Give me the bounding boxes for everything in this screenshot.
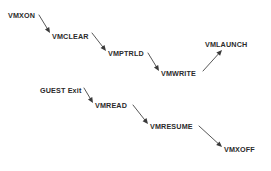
vmx-flow-diagram: VMXONVMCLEARVMPTRLDVMWRITEVMLAUNCHGUEST …: [0, 0, 271, 171]
arrow-vmread-to-vmresume: [133, 105, 148, 124]
arrow-guestexit-to-vmread: [84, 88, 93, 103]
node-label-vmresume: VMRESUME: [150, 122, 193, 131]
node-label-vmptrld: VMPTRLD: [108, 49, 144, 58]
arrow-vmclear-to-vmptrld: [92, 33, 106, 51]
arrow-vmxon-to-vmclear: [39, 15, 50, 33]
arrow-vmptrld-to-vmwrite: [148, 53, 159, 71]
node-label-vmread: VMREAD: [95, 101, 127, 110]
node-label-vmwrite: VMWRITE: [161, 69, 196, 78]
node-label-guestexit: GUEST Exit: [40, 86, 81, 95]
node-label-vmxoff: VMXOFF: [224, 145, 255, 154]
node-label-vmxon: VMXON: [8, 11, 35, 20]
arrow-vmresume-to-vmxoff: [199, 126, 222, 147]
node-label-vmlaunch: VMLAUNCH: [205, 40, 247, 49]
arrow-vmwrite-to-vmlaunch: [203, 50, 222, 71]
node-label-vmclear: VMCLEAR: [52, 32, 89, 41]
